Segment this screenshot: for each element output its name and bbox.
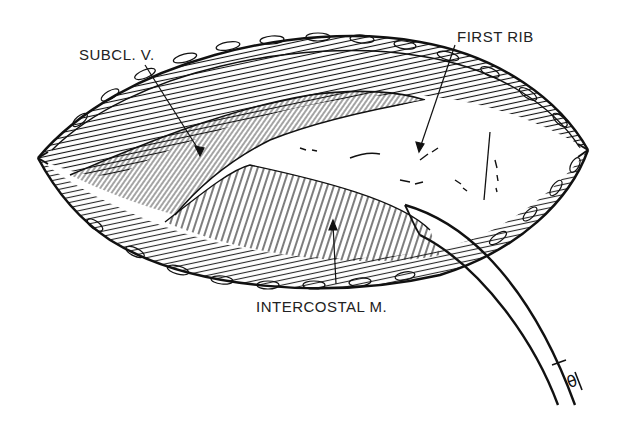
label-intercostal-muscle: INTERCOSTAL M. [256,298,387,315]
label-subclavian-vein: SUBCL. V. [79,46,155,63]
incision-drawing [0,0,625,430]
surgical-illustration: SUBCL. V. FIRST RIB INTERCOSTAL M. θ [0,0,625,430]
label-first-rib: FIRST RIB [457,28,534,45]
